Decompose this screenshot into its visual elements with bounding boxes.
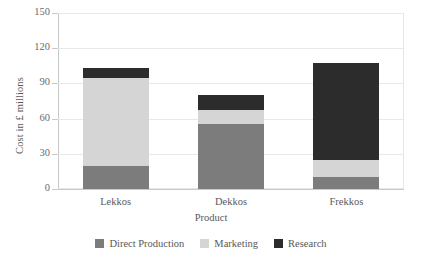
y-tick-label-30: 30 — [20, 147, 50, 158]
legend-swatch-icon — [200, 239, 209, 248]
legend-label: Research — [288, 238, 326, 249]
bar-segment-lekkos-marketing[interactable] — [83, 78, 149, 166]
y-tick-label-120: 120 — [20, 41, 50, 52]
legend-item-marketing[interactable]: Marketing — [200, 238, 258, 249]
bar-segment-lekkos-direct-production[interactable] — [83, 166, 149, 189]
bar-segment-frekkos-marketing[interactable] — [313, 160, 379, 178]
stacked-bar-chart: Cost in £ millions 0306090120150 LekkosD… — [0, 0, 422, 271]
legend-swatch-icon — [95, 239, 104, 248]
bar-dekkos[interactable] — [198, 95, 264, 189]
bar-segment-dekkos-research[interactable] — [198, 95, 264, 110]
y-tick-label-60: 60 — [20, 112, 50, 123]
x-tick-label-dekkos: Dekkos — [171, 196, 291, 207]
gridline-150 — [58, 13, 404, 14]
x-tick-label-lekkos: Lekkos — [56, 196, 176, 207]
plot-area — [58, 13, 404, 189]
bar-segment-frekkos-direct-production[interactable] — [313, 177, 379, 189]
legend-label: Direct Production — [109, 238, 184, 249]
chart-legend: Direct ProductionMarketingResearch — [0, 238, 422, 249]
legend-item-direct-production[interactable]: Direct Production — [95, 238, 184, 249]
y-tick-label-90: 90 — [20, 76, 50, 87]
legend-swatch-icon — [274, 239, 283, 248]
gridline-0 — [58, 189, 404, 190]
bar-segment-dekkos-direct-production[interactable] — [198, 124, 264, 189]
x-tick-label-frekkos: Frekkos — [286, 196, 406, 207]
bar-segment-dekkos-marketing[interactable] — [198, 110, 264, 124]
bar-segment-lekkos-research[interactable] — [83, 68, 149, 77]
bar-frekkos[interactable] — [313, 63, 379, 189]
legend-label: Marketing — [214, 238, 258, 249]
legend-item-research[interactable]: Research — [274, 238, 326, 249]
y-tick-label-0: 0 — [20, 182, 50, 193]
gridline-120 — [58, 48, 404, 49]
x-axis-title: Product — [0, 212, 422, 223]
bar-lekkos[interactable] — [83, 68, 149, 189]
y-tick-label-150: 150 — [20, 6, 50, 17]
bar-segment-frekkos-research[interactable] — [313, 63, 379, 159]
